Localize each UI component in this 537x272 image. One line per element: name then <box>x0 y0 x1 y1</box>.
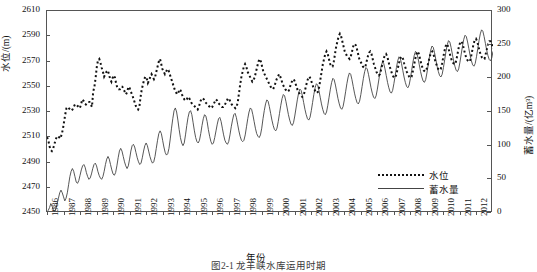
x-axis-tick-label: 1995 <box>200 198 209 216</box>
y-axis-left-tick-label: 2570 <box>0 56 40 65</box>
x-axis-tick-mark <box>410 211 411 215</box>
x-axis-tick-label: 1986 <box>51 198 60 216</box>
legend-swatch-dotted <box>378 170 424 180</box>
x-axis-tick-mark <box>278 211 279 215</box>
legend-label-water-level: 水位 <box>429 168 449 182</box>
x-axis-tick-label: 2010 <box>447 198 456 216</box>
x-axis-tick-mark <box>394 211 395 215</box>
x-axis-tick-label: 1992 <box>150 198 159 216</box>
y-axis-left-tick-label: 2510 <box>0 131 40 140</box>
x-axis-tick-label: 2006 <box>381 198 390 216</box>
x-axis-tick-label: 2011 <box>464 198 473 216</box>
x-axis-tick-mark <box>64 211 65 215</box>
x-axis-tick-mark <box>361 211 362 215</box>
x-axis-tick-mark <box>80 211 81 215</box>
x-axis-tick-label: 2005 <box>365 198 374 216</box>
legend-item-water-level: 水位 <box>378 168 459 182</box>
x-axis-tick-mark <box>460 211 461 215</box>
x-axis-tick-mark <box>113 211 114 215</box>
x-axis-tick-mark <box>130 211 131 215</box>
x-axis-tick-mark <box>146 211 147 215</box>
chart-legend: 水位 蓄水量 <box>378 168 459 196</box>
x-axis-tick-label: 2007 <box>398 198 407 216</box>
x-axis-tick-label: 1993 <box>167 198 176 216</box>
y-axis-left-tick-mark <box>46 35 50 36</box>
y-axis-left-tick-label: 2470 <box>0 182 40 191</box>
x-axis-tick-mark <box>476 211 477 215</box>
legend-label-storage: 蓄水量 <box>429 182 459 196</box>
x-axis-tick-mark <box>427 211 428 215</box>
x-axis-tick-label: 1988 <box>84 198 93 216</box>
y-axis-left-tick-mark <box>46 187 50 188</box>
y-axis-right-tick-mark <box>487 178 491 179</box>
y-axis-right-tick-mark <box>487 77 491 78</box>
x-axis-tick-mark <box>229 211 230 215</box>
x-axis-tick-label: 2012 <box>480 198 489 216</box>
x-axis-tick-label: 1990 <box>117 198 126 216</box>
x-axis-tick-mark <box>212 211 213 215</box>
x-axis-tick-mark <box>328 211 329 215</box>
x-axis-tick-mark <box>262 211 263 215</box>
y-axis-right-tick-mark <box>487 44 491 45</box>
y-axis-left-tick-mark <box>46 61 50 62</box>
x-axis-tick-label: 1987 <box>68 198 77 216</box>
y-axis-right-tick-label: 50 <box>497 173 527 182</box>
y-axis-right-tick-label: 250 <box>497 39 527 48</box>
y-axis-left-title: 水位/(m) <box>0 36 12 72</box>
x-axis-tick-label: 1994 <box>183 198 192 216</box>
x-axis-tick-mark <box>163 211 164 215</box>
y-axis-left-tick-label: 2530 <box>0 106 40 115</box>
y-axis-left-tick-label: 2590 <box>0 30 40 39</box>
x-axis-tick-mark <box>443 211 444 215</box>
legend-swatch-solid <box>378 184 424 194</box>
y-axis-right-tick-label: 300 <box>497 5 527 14</box>
x-axis-tick-mark <box>47 211 48 215</box>
y-axis-left-tick-label: 2610 <box>0 5 40 14</box>
x-axis-tick-mark <box>97 211 98 215</box>
x-axis-tick-label: 2004 <box>348 198 357 216</box>
y-axis-left-tick-mark <box>46 162 50 163</box>
x-axis-tick-label: 2003 <box>332 198 341 216</box>
x-axis-tick-label: 1996 <box>216 198 225 216</box>
figure-caption: 图2-1 龙羊峡水库运用时期 <box>0 258 537 272</box>
legend-item-storage: 蓄水量 <box>378 182 459 196</box>
y-axis-left-tick-mark <box>46 136 50 137</box>
y-axis-right-tick-label: 200 <box>497 72 527 81</box>
x-axis-tick-mark <box>245 211 246 215</box>
x-axis-tick-label: 1998 <box>249 198 258 216</box>
y-axis-right-tick-mark <box>487 10 491 11</box>
y-axis-left-tick-mark <box>46 111 50 112</box>
y-axis-left-tick-label: 2490 <box>0 157 40 166</box>
x-axis-tick-mark <box>377 211 378 215</box>
x-axis-tick-label: 2002 <box>315 198 324 216</box>
x-axis-tick-label: 1991 <box>134 198 143 216</box>
x-axis-tick-mark <box>344 211 345 215</box>
x-axis-tick-label: 2000 <box>282 198 291 216</box>
x-axis-tick-mark <box>196 211 197 215</box>
y-axis-left-tick-label: 2450 <box>0 207 40 216</box>
x-axis-tick-label: 2009 <box>431 198 440 216</box>
x-axis-tick-label: 1997 <box>233 198 242 216</box>
y-axis-right-tick-mark <box>487 111 491 112</box>
x-axis-tick-label: 1989 <box>101 198 110 216</box>
x-axis-tick-mark <box>179 211 180 215</box>
x-axis-tick-label: 2008 <box>414 198 423 216</box>
x-axis-tick-mark <box>295 211 296 215</box>
y-axis-right-tick-label: 0 <box>497 207 527 216</box>
y-axis-right-tick-mark <box>487 145 491 146</box>
x-axis-tick-label: 2001 <box>299 198 308 216</box>
x-axis-tick-label: 1999 <box>266 198 275 216</box>
y-axis-right-tick-label: 150 <box>497 106 527 115</box>
x-axis-tick-mark <box>311 211 312 215</box>
series-water-level-line <box>47 34 493 151</box>
y-axis-right-tick-label: 100 <box>497 140 527 149</box>
y-axis-left-tick-label: 2550 <box>0 81 40 90</box>
y-axis-left-tick-mark <box>46 86 50 87</box>
